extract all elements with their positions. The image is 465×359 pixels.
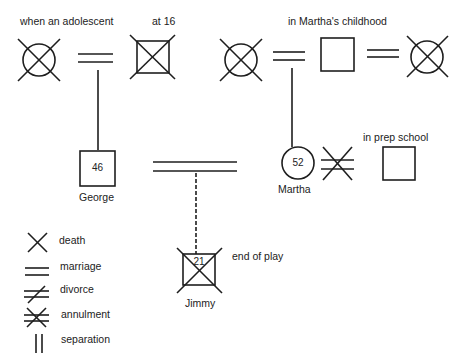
genogram-canvas xyxy=(0,0,465,359)
martha-ex-husband-symbol xyxy=(383,147,415,180)
martha-name: Martha xyxy=(278,183,311,195)
jimmy-age: 21 xyxy=(183,256,215,267)
label-when-adolescent: when an adolescent xyxy=(20,15,113,27)
jimmy-name: Jimmy xyxy=(185,297,215,309)
george-father-symbol xyxy=(130,35,175,79)
legend-divorce-icon xyxy=(24,286,49,303)
annulment-line-martha xyxy=(321,147,354,180)
martha-mother-symbol xyxy=(220,39,262,81)
label-at-16: at 16 xyxy=(152,15,175,27)
george-mother-symbol xyxy=(18,39,60,81)
martha-stepmother-symbol xyxy=(407,36,448,77)
marriage-line-george-parents xyxy=(78,54,113,62)
legend-marriage-icon xyxy=(25,268,49,275)
george-age: 46 xyxy=(80,162,115,173)
label-end-of-play: end of play xyxy=(232,250,283,262)
legend-label-marriage: marriage xyxy=(60,260,101,272)
jimmy-symbol xyxy=(177,248,222,293)
george-name: George xyxy=(79,191,114,203)
legend-death-icon xyxy=(28,233,47,252)
legend-annulment-icon xyxy=(24,308,49,327)
marriage-line-martha-father-second xyxy=(367,50,399,57)
martha-age: 52 xyxy=(282,157,314,168)
label-prep-school: in prep school xyxy=(363,131,428,143)
legend-separation-icon xyxy=(36,334,42,353)
marriage-line-martha-parents xyxy=(273,52,305,60)
legend-label-annulment: annulment xyxy=(61,308,110,320)
legend-label-death: death xyxy=(59,234,85,246)
label-martha-childhood: in Martha's childhood xyxy=(288,15,387,27)
marriage-line-george-martha xyxy=(153,162,237,171)
martha-father-symbol xyxy=(321,38,354,71)
legend-label-divorce: divorce xyxy=(60,283,94,295)
legend-label-separation: separation xyxy=(61,333,110,345)
